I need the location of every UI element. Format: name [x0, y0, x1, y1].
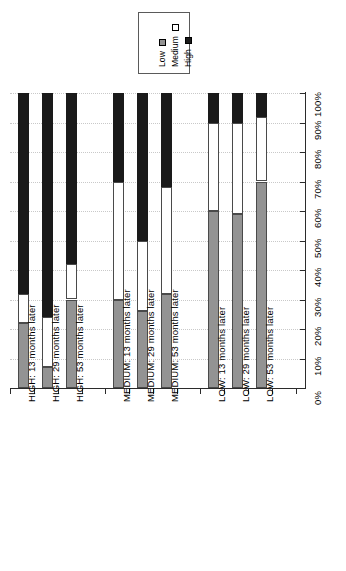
bar-segment-high[interactable]: [137, 93, 148, 241]
value-axis-tick-label: 10%: [313, 356, 323, 376]
value-axis-tick-label: 50%: [313, 238, 323, 258]
bar-segment-high[interactable]: [18, 93, 29, 294]
category-label: MEDIUM: 29 months later: [146, 289, 156, 402]
bar-segment-high[interactable]: [161, 93, 172, 187]
category-label: HIGH: 29 months later: [51, 304, 61, 402]
bar-segment-medium[interactable]: [256, 117, 267, 182]
category-axis-tick: [200, 388, 201, 394]
bar-segment-high[interactable]: [42, 93, 53, 317]
category-label: MEDIUM: 53 months later: [170, 289, 180, 402]
value-axis-tick: [300, 123, 306, 124]
value-axis-tick-label: 90%: [313, 120, 323, 140]
value-axis-tick-label: 80%: [313, 149, 323, 169]
bar-segment-medium[interactable]: [161, 187, 172, 293]
value-axis-tick: [300, 182, 306, 183]
bar-segment-high[interactable]: [208, 93, 219, 123]
bar-segment-high[interactable]: [256, 93, 267, 117]
category-label: LOW: 13 months later: [217, 307, 227, 402]
value-axis-tick: [300, 300, 306, 301]
value-axis-tick: [300, 211, 306, 212]
value-axis-tick-label: 20%: [313, 326, 323, 346]
value-axis-tick-label: 70%: [313, 179, 323, 199]
value-axis-tick: [300, 152, 306, 153]
value-axis-tick-label: 60%: [313, 208, 323, 228]
bar-segment-medium[interactable]: [66, 264, 77, 299]
category-axis-tick: [10, 388, 11, 394]
category-label: MEDIUM: 13 months later: [122, 289, 132, 402]
value-axis-tick: [300, 270, 306, 271]
bar-segment-high[interactable]: [113, 93, 124, 182]
value-axis-tick: [300, 241, 306, 242]
bar-segment-high[interactable]: [232, 93, 243, 123]
category-axis-tick: [296, 388, 297, 394]
category-label: HIGH: 13 months later: [27, 304, 37, 402]
bar-segment-medium[interactable]: [208, 123, 219, 212]
category-label: LOW: 53 months later: [265, 307, 275, 402]
chart-canvas: Low Medium High 0%10%20%30%40%50%60%70%8…: [0, 0, 346, 571]
category-label: HIGH: 53 months later: [75, 304, 85, 402]
category-axis-tick: [105, 388, 106, 394]
bar-segment-high[interactable]: [66, 93, 77, 264]
bar-segment-medium[interactable]: [113, 182, 124, 300]
value-axis-tick-label: 0%: [313, 391, 323, 405]
value-axis-tick: [300, 329, 306, 330]
value-axis-tick-label: 100%: [313, 92, 323, 117]
value-axis-tick: [300, 93, 306, 94]
plot-area: 0%10%20%30%40%50%60%70%80%90%100% HIGH: …: [0, 0, 346, 571]
bar-segment-medium[interactable]: [232, 123, 243, 214]
value-axis-tick-label: 30%: [313, 297, 323, 317]
value-axis-tick-label: 40%: [313, 267, 323, 287]
value-axis-tick: [300, 359, 306, 360]
category-label: LOW: 29 months later: [241, 307, 251, 402]
